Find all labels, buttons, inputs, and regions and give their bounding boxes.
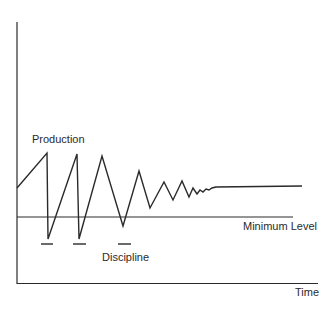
production-label: Production bbox=[32, 134, 85, 145]
time-axis-label: Time bbox=[295, 287, 319, 298]
diagram-canvas bbox=[0, 0, 336, 311]
minimum-level-label: Minimum Level bbox=[243, 221, 317, 232]
production-discipline-diagram: Production Minimum Level Discipline Time bbox=[0, 0, 336, 311]
discipline-label: Discipline bbox=[102, 252, 149, 263]
